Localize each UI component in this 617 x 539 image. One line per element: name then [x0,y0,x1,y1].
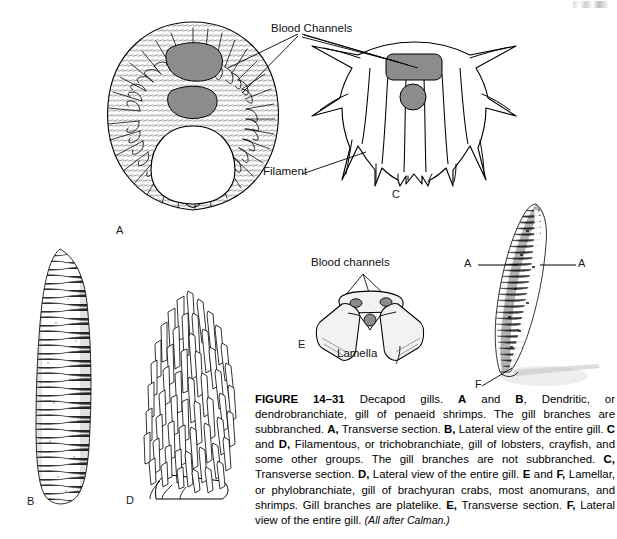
panel-e-blood-channels-label: Blood channels [311,256,390,268]
panel-letter-a: A [116,224,124,236]
panel-f-section-label-left: A [464,257,472,269]
panel-c-filament-leader [300,150,380,190]
figure-caption-text: FIGURE 14–31 Decapod gills. A and B, Den… [255,393,615,526]
page-number-artifact [573,1,609,8]
blood-channel-right [380,298,392,306]
panel-letter-f: F [475,378,482,390]
panel-d-illustration [138,285,248,510]
blood-channel-center [364,314,376,326]
panel-f-section-line [462,255,592,275]
panel-letter-d: D [126,494,134,506]
figure-source-credit: (All after Calman.) [365,514,450,526]
figure-caption: FIGURE 14–31 Decapod gills. A and B, Den… [255,392,615,528]
panel-a-blood-channel-leaders [180,28,310,98]
panel-letter-e: E [298,338,306,350]
panel-f-section-label-right: A [578,257,586,269]
panel-c-filament-label: Filament [263,165,307,177]
central-cavity [151,126,235,204]
figure-page: Blood Channels A [0,0,617,539]
panel-c-blood-channel-leaders [300,28,440,88]
panel-f-illustration [470,200,610,390]
panel-e-lamella-label: Lamella [337,347,377,359]
panel-letter-b: B [27,495,35,507]
blood-channel-left [350,299,362,307]
panel-b-illustration [30,245,108,510]
panel-letter-c: C [392,188,400,200]
